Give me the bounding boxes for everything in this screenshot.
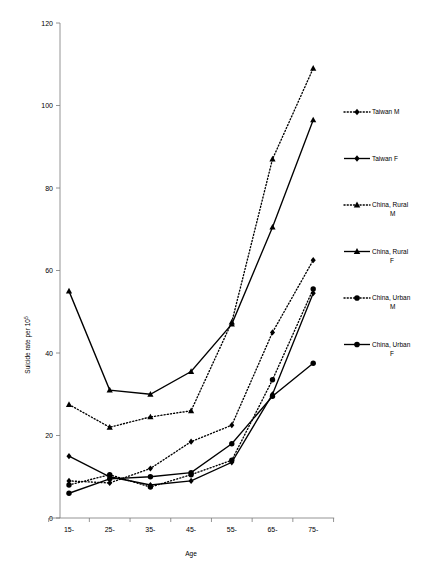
data-point-circle xyxy=(270,377,275,382)
x-tick-label: 65- xyxy=(267,526,278,533)
data-point-circle xyxy=(66,491,71,496)
suicide-rate-line-chart: 020406080100120 Suicide rate per 105 15-… xyxy=(0,0,433,579)
data-point-diamond xyxy=(354,155,359,162)
y-tick-label: 120 xyxy=(41,20,53,27)
data-point-circle xyxy=(229,441,234,446)
x-axis-title: Age xyxy=(185,550,197,558)
legend-label: China, Rural xyxy=(372,201,409,208)
data-point-diamond xyxy=(229,422,234,428)
data-point-triangle xyxy=(310,117,316,123)
legend-label-line2: F xyxy=(390,350,394,357)
x-axis-group: 15-25-35-45-55-65-75- Age xyxy=(49,518,335,558)
y-axis-title-text: Suicide rate per 105 xyxy=(23,316,32,374)
data-point-circle xyxy=(107,476,112,481)
data-point-circle xyxy=(229,458,234,463)
legend-item-china-rural-f[interactable]: China, RuralF xyxy=(344,248,409,264)
legend-label: China, Urban xyxy=(372,341,411,348)
x-tick-label: 75- xyxy=(308,526,319,533)
series-china-urban-m xyxy=(66,286,316,489)
data-point-diamond xyxy=(189,478,194,484)
data-point-circle xyxy=(188,470,193,475)
data-point-circle xyxy=(354,295,360,301)
data-point-triangle xyxy=(66,401,72,407)
series-line xyxy=(69,289,313,487)
series-layer xyxy=(66,65,316,496)
y-tick-label: 60 xyxy=(45,267,53,274)
legend-label-line2: M xyxy=(390,210,395,217)
data-point-circle xyxy=(148,474,153,479)
x-axis-tick-labels: 15-25-35-45-55-65-75- xyxy=(64,526,319,533)
legend-label: Taiwan M xyxy=(372,108,399,115)
x-tick-label: 45- xyxy=(186,526,197,533)
data-point-triangle xyxy=(269,156,275,162)
data-point-diamond xyxy=(66,453,71,459)
x-tick-label: 35- xyxy=(145,526,156,533)
legend-item-china-urban-m[interactable]: China, UrbanM xyxy=(344,294,411,310)
y-tick-label: 20 xyxy=(45,432,53,439)
series-line xyxy=(69,120,313,394)
y-axis-tick-labels: 020406080100120 xyxy=(41,20,53,522)
data-point-circle xyxy=(311,286,316,291)
data-point-triangle xyxy=(269,224,275,230)
data-point-triangle xyxy=(188,407,194,413)
legend-label-line2: M xyxy=(390,303,395,310)
x-axis-ticks xyxy=(49,518,334,522)
y-axis-ticks xyxy=(56,23,60,518)
legend-label-line2: F xyxy=(390,257,394,264)
y-tick-label: 80 xyxy=(45,185,53,192)
data-point-diamond xyxy=(189,439,194,445)
data-point-circle xyxy=(66,482,71,487)
legend-label: China, Urban xyxy=(372,294,411,301)
data-point-diamond xyxy=(270,329,275,335)
y-tick-label: 100 xyxy=(41,102,53,109)
chart-legend: Taiwan MTaiwan FChina, RuralMChina, Rura… xyxy=(344,108,411,356)
legend-item-taiwan-m[interactable]: Taiwan M xyxy=(344,108,399,115)
chart-canvas: 020406080100120 Suicide rate per 105 15-… xyxy=(0,0,433,579)
series-china-rural-f xyxy=(66,117,316,397)
y-axis-title: Suicide rate per 105 xyxy=(23,316,32,374)
data-point-circle xyxy=(311,361,316,366)
data-point-diamond xyxy=(148,465,153,471)
series-line xyxy=(69,293,313,485)
y-tick-label: 40 xyxy=(45,350,53,357)
y-axis-group: 020406080100120 Suicide rate per 105 xyxy=(23,20,60,522)
series-taiwan-f xyxy=(66,290,315,488)
data-point-triangle xyxy=(310,65,316,71)
legend-item-china-urban-f[interactable]: China, UrbanF xyxy=(344,341,411,357)
data-point-circle xyxy=(354,342,360,348)
legend-label: China, Rural xyxy=(372,248,409,255)
x-tick-label: 55- xyxy=(227,526,238,533)
x-tick-label: 25- xyxy=(105,526,116,533)
data-point-triangle xyxy=(66,288,72,294)
data-point-circle xyxy=(270,394,275,399)
data-point-circle xyxy=(148,484,153,489)
x-tick-label: 15- xyxy=(64,526,75,533)
legend-item-taiwan-f[interactable]: Taiwan F xyxy=(344,155,398,162)
legend-item-china-rural-m[interactable]: China, RuralM xyxy=(344,201,409,217)
data-point-triangle xyxy=(107,387,113,393)
legend-label: Taiwan F xyxy=(372,155,398,162)
data-point-diamond xyxy=(354,109,359,116)
